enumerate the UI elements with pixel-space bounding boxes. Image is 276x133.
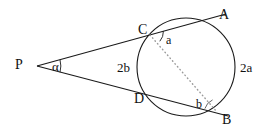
point-label-a: A — [219, 8, 229, 22]
angle-arc-b — [205, 100, 213, 109]
circle-secant-diagram — [0, 0, 276, 133]
angle-label-alpha: α — [52, 60, 59, 73]
secant-line-pa — [37, 14, 226, 66]
arc-label-2a: 2a — [240, 61, 252, 74]
point-label-d: D — [134, 92, 144, 106]
angle-arc-a — [160, 31, 164, 41]
point-label-p: P — [15, 58, 23, 72]
arc-label-2b: 2b — [117, 61, 130, 74]
dotted-chord-cb — [150, 35, 217, 112]
circle-shape — [137, 18, 235, 116]
geometry-figure-canvas: P A B C D α a b 2a 2b — [0, 0, 276, 133]
point-label-c: C — [138, 23, 147, 37]
angle-arc-alpha — [60, 60, 61, 73]
angle-label-a: a — [166, 34, 171, 46]
angle-label-b: b — [196, 98, 202, 110]
point-label-b: B — [222, 113, 231, 127]
